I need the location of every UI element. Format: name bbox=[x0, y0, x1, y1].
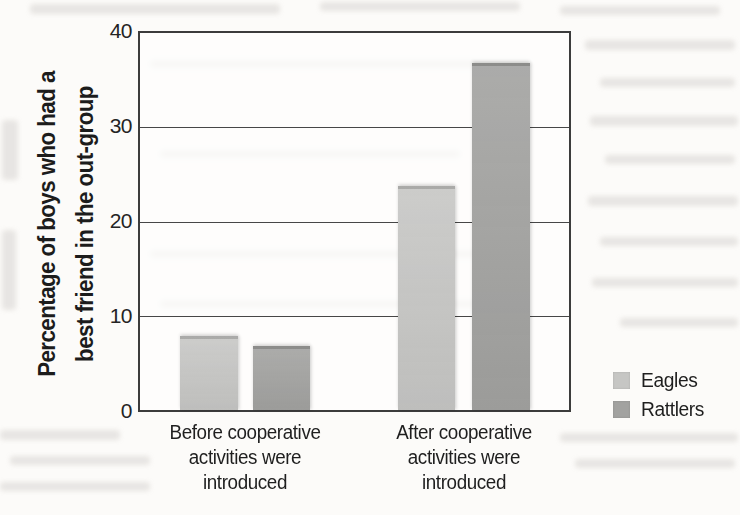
scan-bleed-artifact bbox=[0, 430, 120, 440]
y-tick-label-40: 40 bbox=[82, 18, 132, 44]
x-category-before-line1: Before cooperative bbox=[151, 420, 339, 445]
plot-area bbox=[138, 31, 571, 412]
scan-bleed-artifact bbox=[600, 237, 738, 246]
scan-bleed-artifact bbox=[560, 433, 738, 442]
scan-bleed-artifact bbox=[592, 278, 738, 287]
legend: Eagles Rattlers bbox=[613, 370, 707, 419]
legend-swatch-rattlers bbox=[613, 401, 630, 418]
scan-bleed-artifact bbox=[2, 230, 16, 310]
legend-swatch-eagles bbox=[613, 372, 630, 389]
legend-label-eagles: Eagles bbox=[641, 370, 697, 390]
scan-bleed-artifact bbox=[575, 459, 735, 468]
y-tick-label-0: 0 bbox=[82, 398, 132, 424]
scan-bleed-artifact bbox=[10, 456, 150, 465]
legend-item-eagles: Eagles bbox=[613, 370, 707, 390]
scan-bleed-artifact bbox=[30, 4, 280, 14]
x-category-before-line2: activities were bbox=[151, 445, 339, 470]
x-category-label-after: After cooperative activities were introd… bbox=[370, 420, 558, 495]
bar-after-eagles bbox=[398, 186, 455, 410]
y-tick-label-30: 30 bbox=[82, 113, 132, 139]
figure-canvas: Percentage of boys who had a best friend… bbox=[0, 0, 740, 515]
x-category-label-before: Before cooperative activities were intro… bbox=[151, 420, 339, 495]
bar-before-rattlers bbox=[253, 346, 310, 410]
bar-before-eagles bbox=[180, 336, 238, 410]
bar-after-rattlers bbox=[472, 63, 530, 410]
scan-bleed-artifact bbox=[560, 6, 720, 15]
scan-bleed-artifact bbox=[0, 482, 150, 491]
legend-label-rattlers: Rattlers bbox=[641, 399, 704, 419]
scan-bleed-artifact bbox=[590, 116, 738, 126]
x-category-after-line3: introduced bbox=[370, 470, 558, 495]
y-tick-label-20: 20 bbox=[82, 208, 132, 234]
scan-bleed-artifact bbox=[600, 78, 735, 87]
scan-bleed-artifact bbox=[585, 40, 735, 50]
x-category-before-line3: introduced bbox=[151, 470, 339, 495]
x-category-after-line2: activities were bbox=[370, 445, 558, 470]
y-axis-title-line1: Percentage of boys who had a bbox=[28, 52, 66, 396]
y-tick-label-10: 10 bbox=[82, 303, 132, 329]
scan-bleed-artifact bbox=[605, 155, 735, 164]
legend-item-rattlers: Rattlers bbox=[613, 399, 707, 419]
scan-bleed-artifact bbox=[2, 120, 18, 180]
scan-bleed-artifact bbox=[588, 196, 738, 206]
x-category-after-line1: After cooperative bbox=[370, 420, 558, 445]
scan-bleed-artifact bbox=[620, 318, 738, 327]
scan-bleed-artifact bbox=[320, 2, 520, 11]
